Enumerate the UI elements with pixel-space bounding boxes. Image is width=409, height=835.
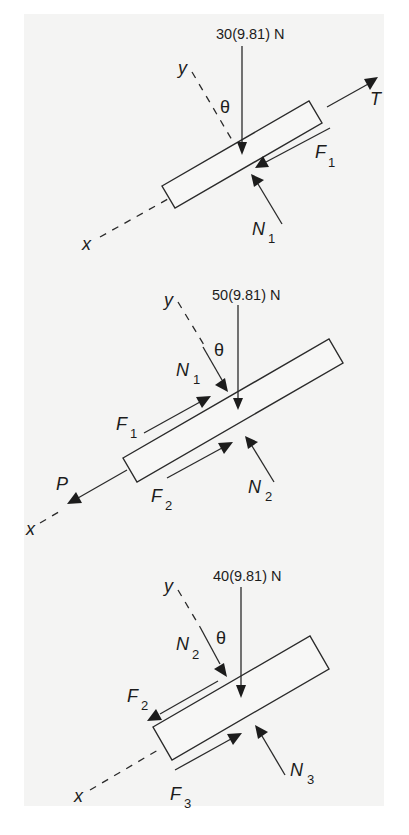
force-label-P: P: [56, 474, 68, 494]
y-axis-label: y: [176, 58, 188, 78]
normal-n1-arrowhead-icon: [251, 174, 264, 187]
friction-f3-arrowhead-icon: [227, 733, 242, 745]
diagram-block-1: x y 30(9.81) N θ T F 1 N 1: [81, 26, 383, 254]
force-sub-2: 2: [192, 647, 199, 662]
normal-n2-arrowhead-icon: [245, 436, 258, 449]
y-axis-label: y: [162, 576, 174, 596]
x-axis-label: x: [25, 519, 36, 539]
x-axis-line: [90, 750, 158, 790]
force-sub-1: 1: [130, 426, 137, 441]
weight-label: 50(9.81) N: [212, 287, 281, 303]
force-sub-2: 2: [141, 698, 148, 713]
x-axis-label: x: [73, 786, 84, 806]
force-sub-2: 2: [165, 498, 172, 513]
theta-label: θ: [216, 628, 226, 648]
x-axis-line: [100, 199, 168, 237]
normal-n3-line: [262, 736, 285, 775]
force-p-line: [78, 470, 127, 498]
friction-f2-arrowhead-icon: [218, 442, 233, 454]
theta-label: θ: [220, 97, 230, 117]
force-label-F: F: [127, 686, 139, 706]
normal-n1-line: [258, 184, 282, 224]
friction-f2-arrowhead-icon: [147, 709, 162, 721]
tension-arrow-line: [327, 83, 370, 107]
force-sub-3: 3: [307, 772, 314, 787]
force-label-F: F: [151, 486, 163, 506]
diagram-block-3: y x 40(9.81) N θ N 2 F 2 F 3 N 3: [73, 568, 329, 811]
normal-n2-arrowhead-icon: [214, 663, 227, 677]
free-body-diagrams: x y 30(9.81) N θ T F 1 N 1 y x 50(9.81): [0, 0, 409, 835]
force-label-N: N: [176, 360, 190, 380]
y-axis-label: y: [162, 290, 174, 310]
force-sub-1: 1: [328, 155, 335, 170]
force-label-F: F: [315, 142, 327, 162]
force-sub-2: 2: [265, 489, 272, 504]
force-label-N: N: [252, 219, 266, 239]
force-p-arrowhead-icon: [67, 492, 82, 504]
force-label-T: T: [370, 89, 383, 109]
y-axis-line: [178, 590, 200, 627]
force-sub-3: 3: [184, 796, 191, 811]
force-label-N: N: [290, 760, 304, 780]
theta-label: θ: [214, 340, 224, 360]
friction-f1-arrowhead-icon: [196, 396, 211, 408]
y-axis-line: [178, 302, 204, 345]
block-2-rect: [123, 339, 343, 482]
force-sub-1: 1: [268, 231, 275, 246]
weight-label: 40(9.81) N: [213, 568, 282, 584]
force-label-N: N: [248, 477, 262, 497]
normal-n3-arrowhead-icon: [255, 725, 268, 739]
x-axis-label: x: [81, 234, 92, 254]
diagram-block-2: y x 50(9.81) N θ N 1 F 1 P F 2 N 2: [25, 287, 343, 539]
force-label-F: F: [116, 414, 128, 434]
force-label-F: F: [170, 784, 182, 804]
force-label-N: N: [176, 634, 190, 654]
x-axis-line: [40, 510, 62, 523]
force-sub-1: 1: [193, 372, 200, 387]
weight-label: 30(9.81) N: [216, 26, 285, 42]
